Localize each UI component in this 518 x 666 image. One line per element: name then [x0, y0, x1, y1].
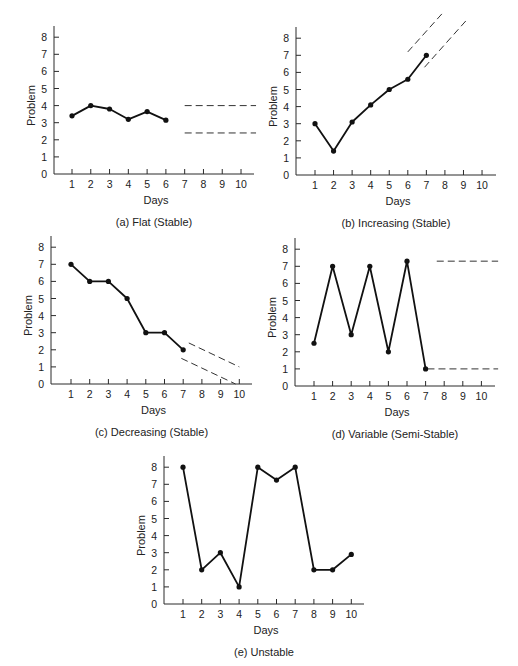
- y-tick-label: 1: [282, 363, 288, 375]
- data-point: [350, 119, 355, 124]
- y-tick-label: 7: [282, 260, 288, 272]
- chart-caption: (b) Increasing (Stable): [342, 217, 451, 229]
- data-point: [145, 109, 150, 114]
- data-point: [126, 117, 131, 122]
- data-point: [274, 477, 279, 482]
- data-point: [125, 296, 130, 301]
- x-tick-label: 10: [235, 178, 247, 190]
- data-point: [199, 567, 204, 572]
- x-axis-label: Days: [253, 624, 279, 636]
- y-tick-label: 3: [151, 547, 157, 559]
- data-point: [88, 103, 93, 108]
- projection-dashed-line: [408, 13, 443, 52]
- data-point: [368, 102, 373, 107]
- data-point: [180, 465, 185, 470]
- y-tick-label: 3: [38, 327, 44, 339]
- data-point: [330, 264, 335, 269]
- x-tick-label: 1: [180, 608, 186, 620]
- data-point: [349, 332, 354, 337]
- y-tick-label: 1: [38, 361, 44, 373]
- x-tick-label: 10: [476, 390, 488, 402]
- x-tick-label: 5: [386, 179, 392, 191]
- chart-d-variable-semi-stable: 01234567812345678910DaysProblem(d) Varia…: [266, 238, 498, 440]
- x-tick-label: 9: [218, 388, 224, 400]
- axes: [51, 236, 252, 384]
- x-tick-label: 1: [68, 388, 74, 400]
- data-point: [293, 465, 298, 470]
- x-axis-label: Days: [385, 195, 411, 207]
- x-tick-label: 8: [199, 388, 205, 400]
- x-tick-label: 7: [292, 608, 298, 620]
- y-tick-label: 4: [38, 310, 44, 322]
- x-tick-label: 5: [385, 390, 391, 402]
- data-point: [106, 279, 111, 284]
- data-point: [68, 262, 73, 267]
- y-tick-label: 7: [38, 258, 44, 270]
- y-tick-label: 4: [41, 100, 47, 112]
- y-axis-label: Problem: [22, 295, 34, 336]
- y-tick-label: 5: [38, 293, 44, 305]
- data-point: [237, 584, 242, 589]
- projection-dashed-line: [181, 358, 235, 384]
- y-tick-label: 0: [283, 169, 289, 181]
- x-tick-label: 9: [460, 390, 466, 402]
- figure-canvas: 01234567812345678910DaysProblem(a) Flat …: [0, 0, 518, 666]
- data-point: [312, 121, 317, 126]
- x-tick-label: 9: [219, 178, 225, 190]
- x-tick-label: 10: [476, 179, 488, 191]
- x-tick-label: 1: [312, 179, 318, 191]
- y-tick-label: 1: [151, 581, 157, 593]
- y-tick-label: 5: [283, 84, 289, 96]
- x-tick-label: 5: [144, 178, 150, 190]
- x-tick-label: 7: [423, 179, 429, 191]
- x-tick-label: 6: [162, 388, 168, 400]
- x-tick-label: 7: [180, 388, 186, 400]
- chart-c-decreasing-stable: 01234567812345678910DaysProblem(c) Decre…: [22, 236, 252, 438]
- data-point: [163, 118, 168, 123]
- x-tick-label: 3: [349, 179, 355, 191]
- y-tick-label: 0: [41, 168, 47, 180]
- y-tick-label: 4: [283, 101, 289, 113]
- y-tick-label: 6: [38, 275, 44, 287]
- y-tick-label: 2: [41, 134, 47, 146]
- y-axis-label: Problem: [267, 86, 279, 127]
- x-tick-label: 3: [348, 390, 354, 402]
- y-tick-label: 6: [151, 495, 157, 507]
- data-point: [331, 148, 336, 153]
- data-series-line: [314, 261, 426, 369]
- x-tick-label: 5: [255, 608, 261, 620]
- y-tick-label: 0: [38, 378, 44, 390]
- x-tick-label: 9: [461, 179, 467, 191]
- y-tick-label: 0: [151, 598, 157, 610]
- x-tick-label: 6: [274, 608, 280, 620]
- data-point: [405, 77, 410, 82]
- y-tick-label: 6: [282, 277, 288, 289]
- x-tick-label: 4: [125, 178, 131, 190]
- y-tick-label: 8: [151, 461, 157, 473]
- data-point: [143, 330, 148, 335]
- data-point: [255, 465, 260, 470]
- chart-caption: (a) Flat (Stable): [116, 216, 192, 228]
- y-tick-label: 6: [41, 65, 47, 77]
- x-tick-label: 10: [345, 608, 357, 620]
- y-tick-label: 2: [283, 135, 289, 147]
- x-tick-label: 8: [311, 608, 317, 620]
- y-tick-label: 5: [282, 295, 288, 307]
- x-tick-label: 2: [87, 388, 93, 400]
- x-tick-label: 3: [107, 178, 113, 190]
- x-tick-label: 2: [199, 608, 205, 620]
- data-point: [218, 550, 223, 555]
- y-tick-label: 7: [283, 49, 289, 61]
- y-tick-label: 3: [41, 117, 47, 129]
- y-tick-label: 8: [38, 241, 44, 253]
- x-tick-label: 3: [217, 608, 223, 620]
- x-tick-label: 9: [330, 608, 336, 620]
- data-series-line: [71, 264, 183, 350]
- y-tick-label: 2: [282, 346, 288, 358]
- data-point: [330, 567, 335, 572]
- x-tick-label: 2: [330, 390, 336, 402]
- x-tick-label: 8: [201, 178, 207, 190]
- y-tick-label: 7: [151, 478, 157, 490]
- y-tick-label: 3: [282, 329, 288, 341]
- x-tick-label: 2: [88, 178, 94, 190]
